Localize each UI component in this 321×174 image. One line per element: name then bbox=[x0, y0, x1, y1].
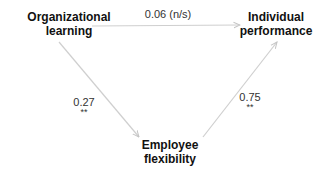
edge-ol-to-ip-coefficient: 0.06 (n/s) bbox=[128, 8, 208, 20]
edge-ol-to-ef-significance: ** bbox=[66, 108, 102, 116]
path-diagram: Organizational learning Individual perfo… bbox=[0, 0, 321, 174]
edge-ol-to-ef-coefficient: 0.27 ** bbox=[66, 96, 102, 116]
node-employee-flexibility: Employee flexibility bbox=[130, 138, 210, 166]
edge-ef-to-ip-significance: ** bbox=[232, 103, 268, 111]
node-organizational-learning-line1: Organizational bbox=[14, 10, 124, 24]
node-employee-flexibility-line2: flexibility bbox=[130, 152, 210, 166]
edge-ef-to-ip-coefficient: 0.75 ** bbox=[232, 91, 268, 111]
node-individual-performance: Individual performance bbox=[236, 10, 316, 38]
node-individual-performance-line1: Individual bbox=[236, 10, 316, 24]
edge-ol-to-ip-coefficient-value: 0.06 (n/s) bbox=[145, 8, 191, 20]
edge-ol-to-ef-arrow bbox=[59, 42, 139, 137]
node-individual-performance-line2: performance bbox=[236, 24, 316, 38]
node-employee-flexibility-line1: Employee bbox=[130, 138, 210, 152]
edge-ef-to-ip-arrow bbox=[203, 42, 277, 137]
node-organizational-learning: Organizational learning bbox=[14, 10, 124, 38]
node-organizational-learning-line2: learning bbox=[14, 24, 124, 38]
